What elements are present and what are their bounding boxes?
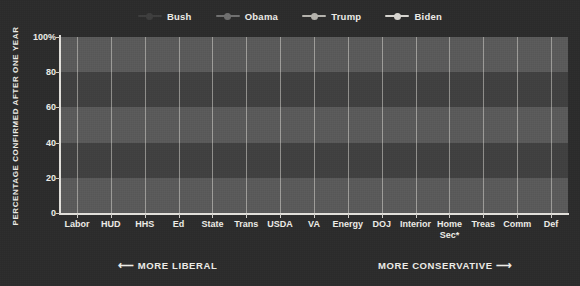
x-tick-mark: [280, 214, 281, 218]
x-tick-mark: [314, 214, 315, 218]
x-tick-mark: [246, 214, 247, 218]
legend-item-obama[interactable]: Obama: [216, 11, 278, 22]
x-axis-label: Trans: [234, 219, 258, 230]
vertical-gridline: [416, 37, 417, 213]
legend-label: Biden: [414, 11, 442, 22]
x-axis-label: State: [201, 219, 223, 230]
x-axis-label: Energy: [333, 219, 364, 230]
y-axis-tick-label: 80: [20, 67, 56, 77]
chart-legend: BushObamaTrumpBiden: [0, 8, 580, 24]
y-tick-mark: [56, 213, 60, 214]
y-axis-tick-label: 20: [20, 173, 56, 183]
vertical-gridline: [111, 37, 112, 213]
x-tick-mark: [517, 214, 518, 218]
y-tick-mark: [56, 107, 60, 108]
x-axis-label: USDA: [267, 219, 293, 230]
vertical-gridline: [77, 37, 78, 213]
legend-marker-icon: [385, 11, 409, 21]
x-axis-label: Home Sec*: [434, 219, 464, 241]
vertical-gridline: [212, 37, 213, 213]
y-axis-ticks: 020406080100%: [20, 0, 56, 286]
vertical-gridline: [382, 37, 383, 213]
x-tick-mark: [212, 214, 213, 218]
more-conservative-label: MORE CONSERVATIVE: [378, 260, 493, 271]
y-axis-tick-label: 60: [20, 102, 56, 112]
y-axis-line: [59, 35, 61, 215]
x-tick-mark: [416, 214, 417, 218]
x-axis-label: Comm: [503, 219, 531, 230]
vertical-gridline: [517, 37, 518, 213]
x-tick-mark: [348, 214, 349, 218]
legend-label: Bush: [167, 11, 192, 22]
vertical-gridline: [348, 37, 349, 213]
vertical-gridline: [145, 37, 146, 213]
vertical-gridline: [314, 37, 315, 213]
vertical-gridline: [246, 37, 247, 213]
legend-item-trump[interactable]: Trump: [302, 11, 361, 22]
x-axis-label: Interior: [400, 219, 431, 230]
x-tick-mark: [77, 214, 78, 218]
legend-item-biden[interactable]: Biden: [385, 11, 442, 22]
x-axis-label: Labor: [64, 219, 89, 230]
x-axis-label: DOJ: [372, 219, 391, 230]
legend-label: Trump: [331, 11, 361, 22]
legend-marker-icon: [138, 11, 162, 21]
x-axis-label: Ed: [173, 219, 185, 230]
x-tick-mark: [179, 214, 180, 218]
vertical-gridline: [483, 37, 484, 213]
left-arrow-icon: ⟵: [118, 259, 135, 271]
vertical-gridline: [280, 37, 281, 213]
y-tick-mark: [56, 178, 60, 179]
more-liberal-annotation: ⟵ MORE LIBERAL: [118, 259, 217, 272]
x-axis-label: HUD: [101, 219, 121, 230]
y-tick-mark: [56, 143, 60, 144]
more-conservative-annotation: MORE CONSERVATIVE ⟶: [378, 259, 513, 272]
x-axis-label: Treas: [472, 219, 496, 230]
y-axis-tick-label: 0: [20, 208, 56, 218]
x-tick-mark: [483, 214, 484, 218]
legend-marker-icon: [216, 11, 240, 21]
y-axis-tick-label: 100%: [20, 32, 56, 42]
x-axis-label: HHS: [135, 219, 154, 230]
x-tick-mark: [382, 214, 383, 218]
y-tick-mark: [56, 72, 60, 73]
chart-container: BushObamaTrumpBiden PERCENTAGE CONFIRMED…: [0, 0, 580, 286]
axis-direction-annotations: ⟵ MORE LIBERAL MORE CONSERVATIVE ⟶: [0, 259, 580, 279]
x-tick-mark: [111, 214, 112, 218]
vertical-gridline: [551, 37, 552, 213]
plot-area: [60, 37, 568, 213]
x-axis-label: Def: [544, 219, 559, 230]
x-axis-label: VA: [308, 219, 320, 230]
more-liberal-label: MORE LIBERAL: [138, 260, 218, 271]
legend-item-bush[interactable]: Bush: [138, 11, 192, 22]
y-axis-tick-label: 40: [20, 138, 56, 148]
vertical-gridline: [449, 37, 450, 213]
x-tick-mark: [449, 214, 450, 218]
legend-marker-icon: [302, 11, 326, 21]
vertical-gridline: [179, 37, 180, 213]
legend-label: Obama: [245, 11, 278, 22]
x-tick-mark: [551, 214, 552, 218]
y-tick-mark: [56, 37, 60, 38]
x-tick-mark: [145, 214, 146, 218]
right-arrow-icon: ⟶: [496, 259, 513, 271]
